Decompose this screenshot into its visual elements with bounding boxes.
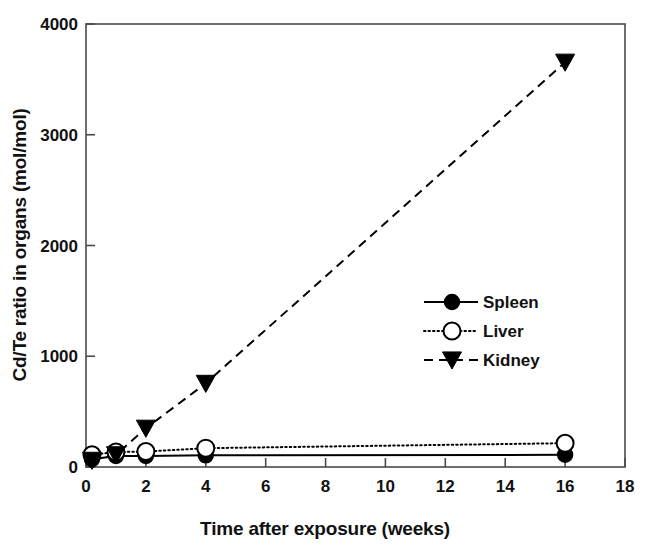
x-tick-label: 16 xyxy=(556,477,575,496)
series-line-kidney xyxy=(92,62,565,460)
chart-legend: SpleenLiverKidney xyxy=(424,293,540,370)
x-tick-label: 6 xyxy=(261,477,270,496)
data-point-kidney xyxy=(556,54,575,71)
x-tick-label: 0 xyxy=(81,477,90,496)
x-tick-label: 10 xyxy=(376,477,395,496)
y-tick-label: 1000 xyxy=(40,347,78,366)
x-axis-title: Time after exposure (weeks) xyxy=(200,518,450,539)
y-tick-label: 4000 xyxy=(40,15,78,34)
x-axis-ticks xyxy=(86,458,625,467)
x-tick-labels: 0 2 4 6 8 10 12 14 16 18 xyxy=(81,477,634,496)
data-point-kidney xyxy=(136,420,155,437)
x-tick-label: 18 xyxy=(616,477,635,496)
series-line-spleen xyxy=(92,455,565,459)
legend-label-spleen: Spleen xyxy=(483,293,539,312)
legend-marker-liver xyxy=(444,323,461,340)
chart-figure: 0 1000 2000 3000 4000 0 2 4 6 8 10 12 14… xyxy=(0,0,646,549)
data-point-kidney xyxy=(196,375,215,392)
x-tick-label: 8 xyxy=(321,477,330,496)
x-tick-label: 4 xyxy=(201,477,211,496)
series-line-liver xyxy=(92,443,565,455)
data-point-liver xyxy=(137,443,154,460)
plot-frame xyxy=(86,24,625,467)
y-tick-label: 3000 xyxy=(40,126,78,145)
x-tick-label: 12 xyxy=(436,477,455,496)
data-series-layer xyxy=(82,54,574,469)
legend-label-liver: Liver xyxy=(483,322,524,341)
data-point-liver xyxy=(557,435,574,452)
x-tick-label: 14 xyxy=(496,477,515,496)
y-axis-title: Cd/Te ratio in organs (mol/mol) xyxy=(9,108,30,381)
y-tick-label: 0 xyxy=(69,458,78,477)
y-tick-label: 2000 xyxy=(40,237,78,256)
data-point-liver xyxy=(197,440,214,457)
legend-marker-spleen xyxy=(445,295,460,310)
legend-label-kidney: Kidney xyxy=(483,351,540,370)
y-tick-labels: 0 1000 2000 3000 4000 xyxy=(40,15,78,477)
line-chart: 0 1000 2000 3000 4000 0 2 4 6 8 10 12 14… xyxy=(0,0,646,549)
y-axis-ticks xyxy=(86,24,95,467)
x-tick-label: 2 xyxy=(141,477,150,496)
